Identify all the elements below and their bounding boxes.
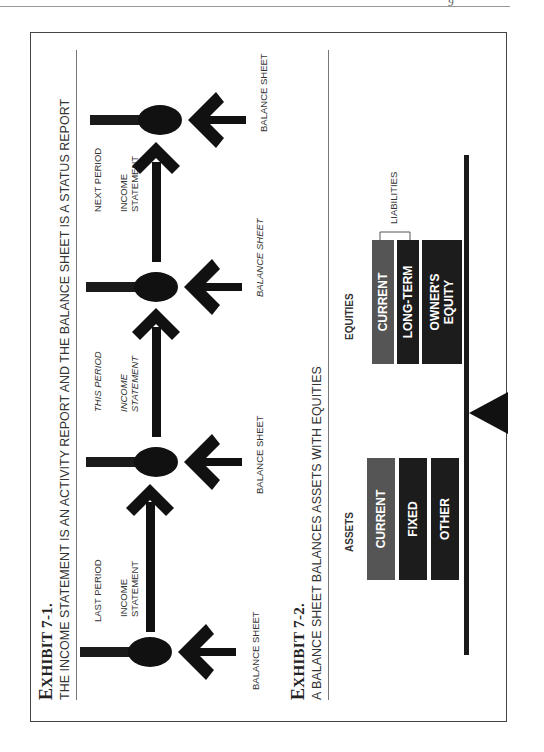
- fulcrum-triangle: [0, 0, 544, 752]
- rotated-page-content: EXHIBIT 7-1. THE INCOME STATEMENT IS AN …: [0, 0, 544, 752]
